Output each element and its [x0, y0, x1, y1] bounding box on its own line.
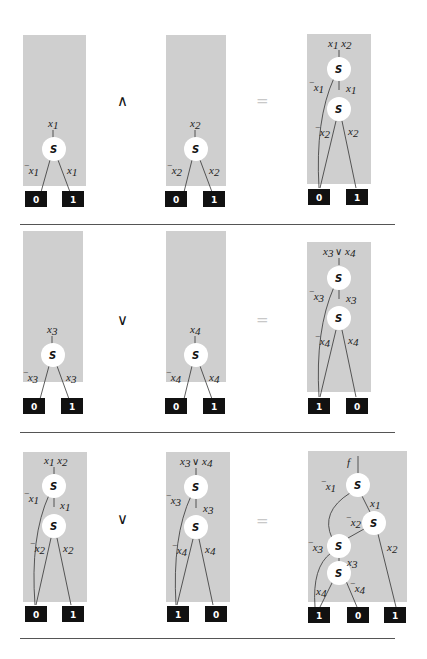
svg-text:‾x4: ‾x4	[166, 371, 182, 385]
svg-text:‾x4: ‾x4	[172, 544, 188, 558]
svg-text:1: 1	[175, 610, 181, 620]
svg-text:∨: ∨	[192, 456, 199, 467]
svg-text:0: 0	[354, 402, 360, 412]
svg-text:‾x2: ‾x2	[30, 542, 46, 556]
svg-text:‾x1: ‾x1	[321, 480, 336, 494]
svg-text:0: 0	[33, 195, 39, 205]
svg-text:x4: x4	[201, 455, 213, 469]
svg-text:‾x3: ‾x3	[308, 541, 324, 555]
svg-text:S: S	[50, 481, 57, 492]
svg-text:0: 0	[173, 195, 179, 205]
svg-text:1: 1	[392, 611, 398, 621]
bdd-x1-and-x2: x1 x2 S S ‾x1 x1 ‾x2 x2 0 1	[290, 0, 400, 225]
svg-text:x2: x2	[189, 117, 201, 131]
svg-text:x1: x1	[369, 497, 380, 511]
svg-text:x2: x2	[386, 541, 398, 555]
svg-text:S: S	[370, 518, 377, 529]
svg-text:1: 1	[70, 610, 76, 620]
bdd-x3-or-x4: x3 ∨ x4 S S ‾x3 x3 ‾x4 x4 1 0	[290, 225, 400, 435]
row-and: x1 S ‾x1 x1 0 1 ∧ x2 S ‾x2 x2 0 1 = x1 x…	[0, 0, 427, 225]
svg-text:‾x4: ‾x4	[315, 335, 331, 349]
svg-text:S: S	[192, 522, 199, 533]
svg-text:‾x4: ‾x4	[350, 582, 366, 596]
svg-text:1: 1	[316, 402, 322, 412]
svg-text:x2: x2	[347, 125, 359, 139]
svg-text:S: S	[192, 350, 199, 361]
svg-text:S: S	[50, 521, 57, 532]
bdd-f: f S S S S ‾x1 x1 ‾x2 x2 ‾x3 x3 x4 ‾x4 1 …	[290, 432, 427, 659]
or-operator: ∨	[117, 311, 128, 329]
svg-text:‾x3: ‾x3	[309, 290, 325, 304]
svg-text:x3: x3	[202, 502, 214, 516]
svg-text:x3: x3	[65, 371, 77, 385]
svg-text:x2: x2	[208, 164, 220, 178]
svg-text:0: 0	[316, 193, 322, 203]
svg-text:‾x2: ‾x2	[346, 516, 362, 530]
svg-text:0: 0	[355, 611, 361, 621]
svg-text:x4: x4	[208, 371, 220, 385]
svg-text:x4: x4	[204, 543, 216, 557]
equals-sign: =	[256, 311, 269, 329]
svg-text:S: S	[335, 104, 342, 115]
svg-text:1: 1	[354, 193, 360, 203]
svg-text:x1 x2: x1 x2	[327, 37, 352, 51]
svg-text:S: S	[50, 144, 57, 155]
svg-text:S: S	[335, 273, 342, 284]
svg-text:0: 0	[213, 610, 219, 620]
bdd-x3: x3 S ‾x3 x3 0 1	[0, 225, 140, 435]
svg-text:S: S	[192, 144, 199, 155]
svg-text:x2: x2	[62, 542, 74, 556]
svg-text:0: 0	[31, 402, 37, 412]
svg-text:S: S	[335, 568, 342, 579]
svg-text:‾x2: ‾x2	[167, 164, 183, 178]
svg-text:x3: x3	[179, 455, 191, 469]
svg-text:‾x1: ‾x1	[24, 164, 39, 178]
svg-text:1: 1	[69, 402, 75, 412]
svg-text:‾x3: ‾x3	[23, 371, 39, 385]
svg-text:∨: ∨	[335, 246, 342, 257]
row-or: x3 S ‾x3 x3 0 1 ∨ x4 S ‾x4 x4 0 1 = x3 ∨…	[0, 225, 427, 435]
svg-text:x1: x1	[47, 117, 58, 131]
row-or-composite: x1 x2 S S ‾x1 x1 ‾x2 x2 0 1 ∨ x3 ∨ x4 S …	[0, 432, 427, 659]
svg-text:‾x1: ‾x1	[309, 81, 324, 95]
svg-text:x3: x3	[322, 245, 334, 259]
and-operator: ∧	[117, 92, 128, 110]
svg-text:S: S	[192, 482, 199, 493]
svg-text:1: 1	[70, 195, 76, 205]
svg-text:S: S	[335, 313, 342, 324]
svg-text:x4: x4	[347, 334, 359, 348]
svg-text:x4: x4	[315, 585, 327, 599]
svg-text:x4: x4	[189, 323, 201, 337]
svg-text:x4: x4	[344, 245, 356, 259]
bdd-x2: x2 S ‾x2 x2 0 1	[140, 0, 250, 225]
svg-text:x3: x3	[346, 556, 358, 570]
bdd-x4: x4 S ‾x4 x4 0 1	[140, 225, 250, 435]
bdd-x3-or-x4-middle: x3 ∨ x4 S S ‾x3 x3 ‾x4 x4 1 0	[140, 432, 250, 659]
svg-text:1: 1	[316, 611, 322, 621]
svg-text:‾x1: ‾x1	[24, 492, 39, 506]
svg-text:1: 1	[211, 402, 217, 412]
svg-text:0: 0	[173, 402, 179, 412]
equals-sign: =	[256, 92, 269, 110]
svg-text:‾x3: ‾x3	[166, 494, 182, 508]
bdd-x1-and-x2-left: x1 x2 S S ‾x1 x1 ‾x2 x2 0 1	[0, 432, 140, 659]
bdd-x1: x1 S ‾x1 x1 0 1	[0, 0, 140, 225]
svg-text:S: S	[335, 541, 342, 552]
svg-text:0: 0	[33, 610, 39, 620]
or-operator: ∨	[117, 510, 128, 528]
svg-text:S: S	[335, 64, 342, 75]
svg-text:S: S	[49, 350, 56, 361]
svg-text:S: S	[354, 480, 361, 491]
svg-text:x1: x1	[59, 499, 70, 513]
svg-text:x3: x3	[345, 292, 357, 306]
svg-text:x3: x3	[46, 323, 58, 337]
svg-text:x1 x2: x1 x2	[43, 454, 68, 468]
svg-text:f: f	[347, 456, 352, 468]
svg-text:‾x2: ‾x2	[315, 126, 331, 140]
equals-sign: =	[256, 512, 269, 530]
separator	[20, 638, 395, 639]
svg-text:x1: x1	[345, 82, 356, 96]
svg-text:x1: x1	[66, 164, 77, 178]
svg-text:1: 1	[211, 195, 217, 205]
